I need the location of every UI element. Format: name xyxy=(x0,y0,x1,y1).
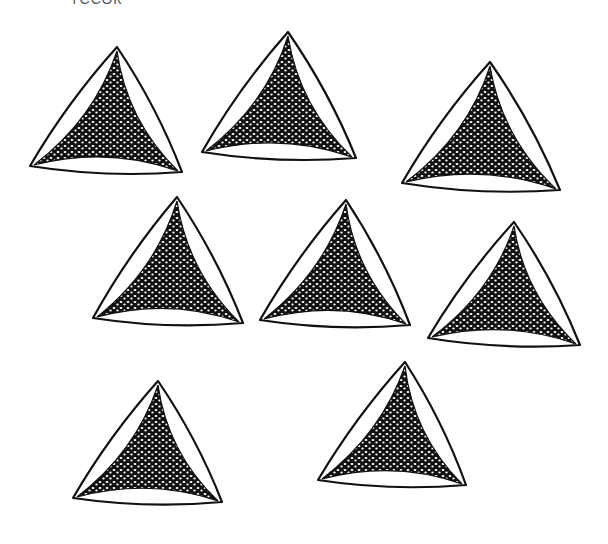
specimen-2 xyxy=(202,32,356,160)
specimen-4 xyxy=(93,197,243,325)
specimen-group xyxy=(30,32,580,505)
specimen-5 xyxy=(260,200,410,327)
specimen-8 xyxy=(318,362,466,487)
specimen-6 xyxy=(428,222,580,347)
specimen-3 xyxy=(402,62,560,192)
specimen-1 xyxy=(30,47,182,174)
specimen-7 xyxy=(73,381,222,505)
specimen-plate xyxy=(0,0,608,544)
